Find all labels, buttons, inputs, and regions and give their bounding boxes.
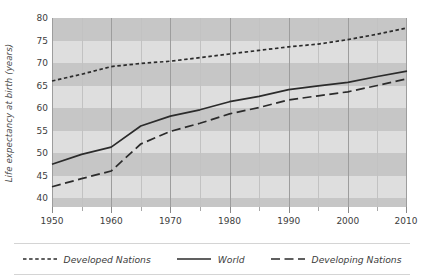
legend-swatch-dotted-icon	[23, 254, 57, 264]
x-tick-label: 2000	[336, 216, 359, 226]
y-tick-label: 55	[22, 126, 48, 136]
y-axis-tick-labels: 404550556065707580	[18, 18, 48, 207]
y-tick-label: 70	[22, 58, 48, 68]
x-tick-label: 1950	[41, 216, 64, 226]
x-tick-mark-minor	[377, 207, 378, 211]
x-tick-mark-minor	[259, 207, 260, 211]
x-tick-mark	[348, 207, 349, 213]
y-axis-title-text: Life expectancy at birth (years)	[4, 44, 14, 183]
x-tick-label: 1970	[159, 216, 182, 226]
series-line	[52, 28, 407, 81]
chart-legend: Developed NationsWorldDeveloping Nations	[14, 243, 410, 275]
x-tick-label: 1980	[218, 216, 241, 226]
x-tick-mark-minor	[141, 207, 142, 211]
x-tick-mark	[170, 207, 171, 213]
x-tick-mark	[406, 207, 407, 213]
y-tick-label: 40	[22, 193, 48, 203]
x-tick-label: 1960	[100, 216, 123, 226]
series-line	[52, 71, 407, 164]
y-tick-label: 75	[22, 36, 48, 46]
legend-item-label: Developing Nations	[312, 254, 402, 265]
legend-swatch-dashed-icon	[271, 254, 305, 264]
legend-item[interactable]: Developing Nations	[271, 254, 402, 265]
x-tick-label: 1990	[277, 216, 300, 226]
legend-item[interactable]: World	[177, 254, 245, 265]
x-axis-tick-labels: 1950196019701980199020002010	[52, 207, 407, 233]
life-expectancy-chart: Life expectancy at birth (years) 4045505…	[0, 0, 424, 280]
y-tick-label: 80	[22, 13, 48, 23]
x-tick-mark	[52, 207, 53, 213]
series-layer	[52, 18, 407, 207]
legend-item-label: Developed Nations	[64, 254, 151, 265]
legend-item[interactable]: Developed Nations	[23, 254, 151, 265]
y-tick-label: 65	[22, 81, 48, 91]
y-tick-label: 60	[22, 103, 48, 113]
x-tick-mark	[230, 207, 231, 213]
y-tick-label: 50	[22, 148, 48, 158]
legend-swatch-solid-icon	[177, 254, 211, 264]
series-line	[52, 79, 407, 187]
legend-item-label: World	[218, 254, 245, 265]
y-tick-label: 45	[22, 171, 48, 181]
y-axis-title: Life expectancy at birth (years)	[0, 18, 18, 208]
x-tick-mark-minor	[82, 207, 83, 211]
plot-area	[52, 18, 407, 207]
x-tick-mark	[289, 207, 290, 213]
x-tick-mark-minor	[200, 207, 201, 211]
x-tick-label: 2010	[395, 216, 418, 226]
x-tick-mark-minor	[318, 207, 319, 211]
x-tick-mark	[111, 207, 112, 213]
